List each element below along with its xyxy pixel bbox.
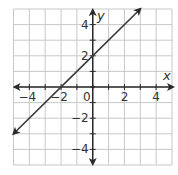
x-tick-label: −2: [50, 90, 68, 104]
coordinate-plane: −4−202442−2−4 x y: [0, 0, 178, 175]
y-tick-label: −2: [71, 111, 89, 125]
x-tick-label: 2: [121, 90, 129, 104]
y-tick-label: 4: [81, 18, 89, 32]
x-tick-label: 4: [152, 90, 160, 104]
y-axis-label: y: [96, 8, 105, 23]
x-axis-label: x: [162, 68, 171, 83]
axes: [15, 10, 174, 164]
x-tick-label: −4: [18, 90, 36, 104]
y-tick-label: −4: [71, 142, 89, 156]
origin-label: 0: [83, 90, 91, 104]
